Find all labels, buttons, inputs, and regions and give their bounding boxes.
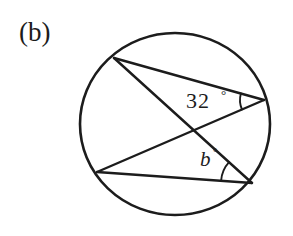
- angle-arc-b: [221, 162, 229, 181]
- angle-arc-32: [240, 94, 242, 110]
- part-label: (b): [19, 17, 50, 47]
- chord-bottom: [97, 172, 252, 183]
- circle-geometry-diagram: (b) 32 ° b °: [0, 0, 293, 236]
- circle-outline: [80, 33, 270, 215]
- chord-diagonal-c-b: [97, 100, 264, 172]
- angle-b-degree-icon: °: [213, 146, 217, 158]
- angle-b-value: b: [200, 147, 211, 171]
- angle-label-b: b °: [200, 146, 217, 171]
- angle-label-32: 32 °: [186, 87, 226, 113]
- geometry-figure: (b) 32 ° b °: [0, 0, 293, 236]
- angle-32-value: 32: [186, 88, 210, 113]
- angle-32-degree-icon: °: [221, 87, 226, 102]
